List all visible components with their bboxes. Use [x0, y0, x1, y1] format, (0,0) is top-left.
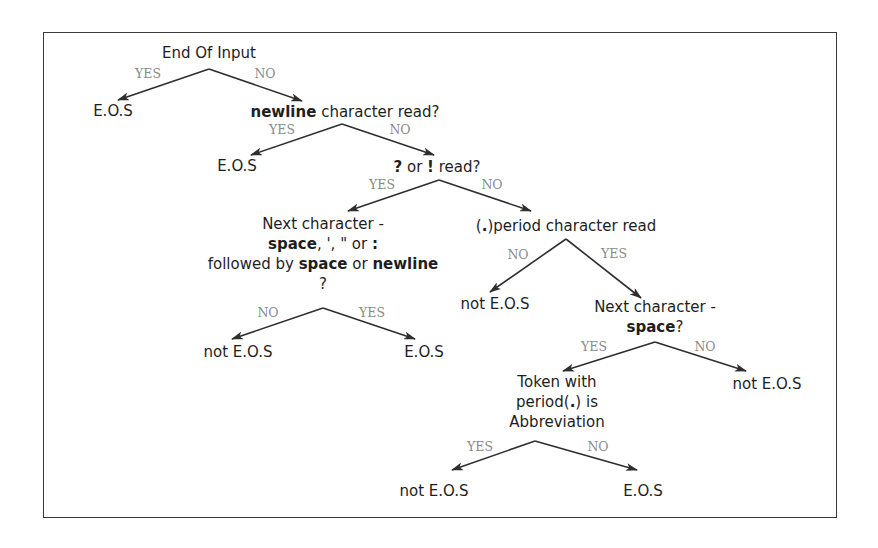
decision-node: (.)period character read [476, 216, 656, 236]
node-text: Next character - [594, 298, 716, 316]
node-text: ? [319, 275, 327, 293]
edge-arrow [251, 124, 342, 155]
node-line: period(.) is [509, 392, 604, 412]
decision-node: ? or ! read? [394, 157, 481, 177]
node-text: )period character read [487, 217, 656, 235]
node-line: Next character - [208, 214, 439, 234]
edge-label-yes: YES [359, 306, 385, 320]
edge-arrow [535, 441, 637, 470]
node-text: E.O.S [93, 102, 133, 120]
node-text: or [402, 158, 427, 176]
node-line: not E.O.S [460, 294, 529, 314]
decision-node: not E.O.S [203, 342, 272, 362]
decision-node: not E.O.S [460, 294, 529, 314]
node-line: Token with [509, 372, 604, 392]
node-line: E.O.S [404, 342, 444, 362]
node-text: read? [434, 158, 481, 176]
node-line: space? [594, 317, 716, 337]
edge-label-no: NO [254, 67, 275, 81]
node-line: E.O.S [623, 481, 663, 501]
edge-arrow [563, 342, 655, 371]
node-text: character read? [316, 103, 439, 121]
node-text: ) is [575, 393, 598, 411]
node-text: not E.O.S [732, 375, 801, 393]
edge-label-no: NO [257, 306, 278, 320]
edge-arrow [342, 124, 434, 155]
node-text: period( [516, 393, 570, 411]
node-line: not E.O.S [203, 342, 272, 362]
edge-label-yes: YES [601, 247, 627, 261]
edge-layer [0, 0, 878, 548]
decision-node: End Of Input [162, 43, 256, 63]
diagram-canvas: End Of InputE.O.Snewline character read?… [0, 0, 878, 548]
edge-arrow [118, 69, 209, 100]
decision-node: E.O.S [404, 342, 444, 362]
node-text: E.O.S [404, 343, 444, 361]
node-line: E.O.S [217, 156, 257, 176]
node-line: followed by space or newline [208, 254, 439, 274]
node-text: Token with [517, 373, 596, 391]
decision-node: E.O.S [217, 156, 257, 176]
edge-label-yes: YES [581, 340, 607, 354]
decision-node: newline character read? [251, 102, 440, 122]
node-keyword: newline [251, 103, 317, 121]
edge-arrow [452, 441, 535, 470]
edge-label-no: NO [481, 178, 502, 192]
node-text: followed by [208, 255, 299, 273]
node-text: Next character - [262, 215, 384, 233]
decision-node: not E.O.S [399, 481, 468, 501]
node-line: Next character - [594, 297, 716, 317]
node-line: not E.O.S [732, 374, 801, 394]
decision-node: not E.O.S [732, 374, 801, 394]
node-text: not E.O.S [460, 295, 529, 313]
node-line: not E.O.S [399, 481, 468, 501]
node-line: newline character read? [251, 102, 440, 122]
node-text: not E.O.S [203, 343, 272, 361]
edge-label-yes: YES [135, 67, 161, 81]
node-text: not E.O.S [399, 482, 468, 500]
node-text: E.O.S [217, 157, 257, 175]
decision-node: E.O.S [93, 101, 133, 121]
edge-label-yes: YES [467, 440, 493, 454]
node-line: space, ', " or : [208, 234, 439, 254]
node-line: End Of Input [162, 43, 256, 63]
node-text: End Of Input [162, 44, 256, 62]
node-line: E.O.S [93, 101, 133, 121]
node-line: Abbreviation [509, 412, 604, 432]
edge-label-yes: YES [369, 178, 395, 192]
decision-node: Token withperiod(.) isAbbreviation [509, 372, 604, 432]
node-keyword: ? [394, 158, 403, 176]
edge-label-yes: YES [269, 123, 295, 137]
node-text: E.O.S [623, 482, 663, 500]
edge-label-no: NO [507, 248, 528, 262]
node-keyword: space [268, 235, 317, 253]
node-line: (.)period character read [476, 216, 656, 236]
edge-label-no: NO [694, 340, 715, 354]
node-line: ? [208, 274, 439, 294]
node-text: Abbreviation [509, 413, 604, 431]
node-keyword: space [627, 318, 676, 336]
node-text: or [348, 255, 373, 273]
decision-node: E.O.S [623, 481, 663, 501]
decision-node: Next character -space, ', " or :followed… [208, 214, 439, 294]
node-text: ? [675, 318, 683, 336]
edge-label-no: NO [389, 123, 410, 137]
decision-node: Next character -space? [594, 297, 716, 337]
node-line: ? or ! read? [394, 157, 481, 177]
node-keyword: space [299, 255, 348, 273]
edge-label-no: NO [587, 440, 608, 454]
node-text: , ', " or [317, 235, 372, 253]
node-keyword: : [372, 235, 378, 253]
node-keyword: newline [372, 255, 438, 273]
